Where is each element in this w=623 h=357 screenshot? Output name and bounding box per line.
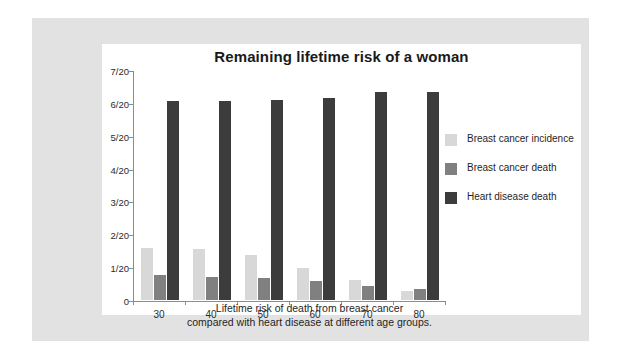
legend-swatch-icon xyxy=(445,134,457,146)
y-axis-tick-label: 6/20 xyxy=(111,98,130,109)
bar xyxy=(297,268,309,300)
legend-label: Breast cancer death xyxy=(467,162,557,173)
y-axis-tick-label: 4/20 xyxy=(111,164,130,175)
chart-mat: Remaining lifetime risk of a woman 01/20… xyxy=(32,18,589,341)
caption-line-1: Lifetime risk of death from breast cance… xyxy=(70,302,549,316)
legend-item[interactable]: Heart disease death xyxy=(445,190,581,219)
y-axis-tick xyxy=(129,170,134,171)
bar xyxy=(401,291,413,300)
y-axis-tick-label: 1/20 xyxy=(111,263,130,274)
y-axis-tick xyxy=(129,137,134,138)
bar xyxy=(427,92,439,300)
bar xyxy=(167,101,179,300)
bar xyxy=(414,289,426,300)
chart-legend: Breast cancer incidenceBreast cancer dea… xyxy=(445,132,581,219)
y-axis-tick xyxy=(129,202,134,203)
bar xyxy=(154,275,166,300)
plot-area: 304050607080 xyxy=(133,71,445,301)
bar xyxy=(245,255,257,300)
bar xyxy=(323,98,335,300)
y-axis-tick xyxy=(129,104,134,105)
legend-swatch-icon xyxy=(445,192,457,204)
bar xyxy=(258,278,270,300)
bar xyxy=(349,280,361,300)
legend-item[interactable]: Breast cancer death xyxy=(445,161,581,190)
chart-screenshot: Remaining lifetime risk of a woman 01/20… xyxy=(0,0,623,357)
bar xyxy=(219,101,231,300)
y-axis-labels: 01/202/203/204/205/206/207/20 xyxy=(93,71,129,302)
y-axis-tick-label: 5/20 xyxy=(111,131,130,142)
figure-caption: Lifetime risk of death from breast cance… xyxy=(70,302,549,329)
bar xyxy=(206,277,218,300)
bar xyxy=(141,248,153,300)
y-axis-tick xyxy=(129,268,134,269)
y-axis-tick-label: 2/20 xyxy=(111,230,130,241)
bar xyxy=(271,100,283,300)
legend-swatch-icon xyxy=(445,163,457,175)
bar xyxy=(362,286,374,300)
y-axis-tick xyxy=(129,235,134,236)
y-axis-tick-label: 3/20 xyxy=(111,197,130,208)
chart-title: Remaining lifetime risk of a woman xyxy=(102,48,581,65)
legend-label: Breast cancer incidence xyxy=(467,133,574,144)
caption-line-2: compared with heart disease at different… xyxy=(70,316,549,330)
y-axis-tick xyxy=(129,71,134,72)
y-axis-tick-label: 7/20 xyxy=(111,66,130,77)
chart-panel: Remaining lifetime risk of a woman 01/20… xyxy=(102,44,581,315)
bar xyxy=(310,281,322,300)
legend-label: Heart disease death xyxy=(467,191,557,202)
bar xyxy=(193,249,205,300)
bar xyxy=(375,92,387,300)
legend-item[interactable]: Breast cancer incidence xyxy=(445,132,581,161)
